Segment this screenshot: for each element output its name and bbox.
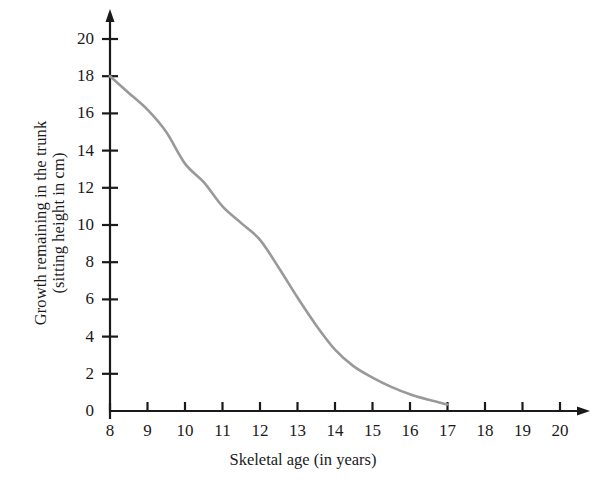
- x-axis-arrow-icon: [577, 407, 590, 416]
- chart-figure: Growth remaining in the trunk (sitting h…: [0, 0, 606, 482]
- series-line-0: [110, 76, 448, 404]
- plot-area: [0, 0, 606, 482]
- axes: [102, 9, 590, 419]
- data-series: [110, 76, 448, 404]
- y-axis-arrow-icon: [106, 9, 115, 22]
